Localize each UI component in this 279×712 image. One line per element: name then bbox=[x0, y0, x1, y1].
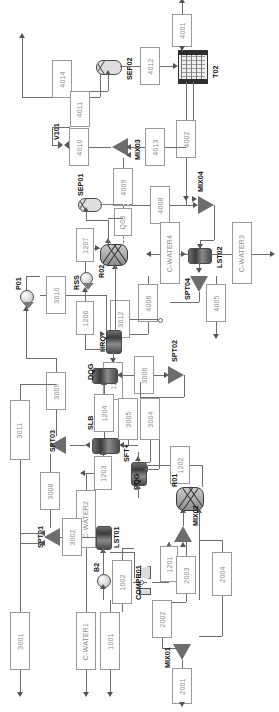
equipment-spt01[interactable] bbox=[44, 528, 60, 546]
stream-4005: 4005 bbox=[206, 284, 226, 322]
line-cw3-out bbox=[252, 254, 272, 255]
equipment-label-compr01: COMPR01 bbox=[134, 565, 143, 600]
line-4014-out bbox=[22, 38, 23, 98]
stream-3009: 3009 bbox=[46, 372, 66, 410]
stream-3010: 3010 bbox=[46, 276, 66, 314]
stream-3004: 3004 bbox=[140, 398, 160, 440]
line-3004-to-sft bbox=[145, 469, 159, 470]
equipment-lst01[interactable] bbox=[96, 526, 112, 550]
stream-2003: 2003 bbox=[176, 556, 196, 594]
line-lst01-in bbox=[103, 548, 104, 558]
equipment-mix04[interactable] bbox=[198, 196, 214, 214]
line-1206-down bbox=[85, 335, 86, 349]
stream-4011: 4011 bbox=[70, 91, 90, 127]
line-2004-h bbox=[199, 540, 222, 541]
equipment-hrq[interactable] bbox=[106, 330, 122, 354]
line-spt02-v bbox=[184, 375, 185, 397]
line-mix04-out-v bbox=[214, 205, 215, 240]
line-r02-out bbox=[108, 234, 109, 244]
stream-c-water3: C-WATER3 bbox=[232, 222, 252, 284]
process-flow-diagram: 4014 SEP02 4012 T02 4001 4002 4011 V101 … bbox=[0, 0, 279, 712]
arrow-cw3-out bbox=[270, 251, 275, 257]
line-sep02-top bbox=[100, 73, 101, 97]
equipment-mix02[interactable] bbox=[174, 526, 192, 542]
equipment-t02[interactable] bbox=[178, 50, 208, 84]
line-spt02-up bbox=[140, 382, 141, 397]
equipment-label-v101: V101 bbox=[52, 123, 61, 140]
equipment-spt02[interactable] bbox=[168, 366, 184, 384]
arrow-spt01-in2 bbox=[40, 540, 45, 546]
stream-c-water4: C-WATER4 bbox=[160, 222, 180, 284]
stream-3011: 3011 bbox=[10, 400, 30, 460]
line-1206-h bbox=[85, 349, 106, 350]
stream-1001: 1001 bbox=[100, 612, 120, 670]
equipment-mix01[interactable] bbox=[173, 644, 191, 660]
equipment-label-lst02: LST02 bbox=[215, 246, 224, 268]
line-sep01-feed-h bbox=[86, 220, 108, 221]
arrow-p01-in bbox=[23, 306, 29, 311]
equipment-label-dqg-top: DQG bbox=[86, 364, 95, 380]
stream-2001: 2001 bbox=[172, 668, 192, 704]
equipment-label-slb: SLB bbox=[86, 416, 95, 430]
arrow-sep02-feed bbox=[105, 70, 111, 75]
stream-4012: 4012 bbox=[140, 47, 160, 85]
line-3005-dn bbox=[128, 440, 129, 445]
line-spt04-h bbox=[170, 302, 199, 303]
line-cw1-dn bbox=[86, 670, 87, 694]
node-3012 bbox=[158, 318, 163, 323]
line-3002-r bbox=[82, 537, 96, 538]
line-r02-feed-v bbox=[115, 276, 116, 334]
arrow-4001-src bbox=[179, 0, 185, 3]
arrow-sep01-feed bbox=[83, 207, 89, 212]
line-3010-r bbox=[66, 295, 106, 296]
equipment-label-t02: T02 bbox=[211, 66, 220, 78]
line-1202-v bbox=[202, 465, 203, 487]
equipment-label-mix01: MIX01 bbox=[163, 647, 172, 668]
line-4009-up bbox=[123, 158, 124, 168]
arrow-spt01-in1 bbox=[40, 530, 45, 536]
arrow-4001-in bbox=[179, 46, 185, 51]
equipment-v101[interactable] bbox=[58, 141, 69, 149]
line-3011-up bbox=[20, 384, 21, 400]
line-mix04-out-h bbox=[200, 240, 214, 241]
line-spt01-h1 bbox=[20, 533, 40, 534]
arrow-4002-mix04 bbox=[183, 196, 189, 201]
line-1001-up bbox=[110, 600, 111, 612]
equipment-label-mix03: MIX03 bbox=[133, 139, 142, 160]
stream-4009: 4009 bbox=[113, 168, 133, 206]
line-3010-l bbox=[40, 295, 46, 296]
equipment-label-sep01: SEP01 bbox=[76, 174, 85, 196]
t02-trays bbox=[181, 53, 205, 81]
stream-3002: 3002 bbox=[62, 518, 82, 556]
line-3010-v bbox=[106, 295, 107, 334]
line-4009-h bbox=[108, 218, 123, 219]
equipment-r02[interactable] bbox=[100, 244, 128, 266]
line-4008-left bbox=[132, 205, 150, 206]
equipment-lst02[interactable] bbox=[188, 248, 212, 264]
stream-1204: 1204 bbox=[94, 394, 114, 432]
stream-3008: 3008 bbox=[40, 472, 60, 510]
equipment-slb[interactable] bbox=[92, 438, 120, 454]
dash-q03-sep01 bbox=[100, 204, 132, 205]
stream-4008: 4008 bbox=[150, 186, 170, 224]
equipment-label-mix02: MIX02 bbox=[191, 505, 200, 526]
line-3002-l bbox=[60, 537, 62, 538]
line-sep02-vap bbox=[120, 66, 140, 67]
equipment-sep01[interactable] bbox=[78, 198, 102, 212]
stream-4001: 4001 bbox=[172, 14, 192, 47]
arrow-1203-l bbox=[80, 470, 85, 476]
stream-1203: 1203 bbox=[94, 456, 112, 490]
arrow-3001-src bbox=[17, 692, 23, 697]
stream-3005: 3005 bbox=[118, 398, 138, 440]
equipment-label-r02: R02 bbox=[97, 265, 106, 278]
line-1002-up bbox=[122, 548, 123, 560]
stream-4014: 4014 bbox=[52, 60, 72, 98]
arrow-b2-in bbox=[100, 584, 106, 589]
line-dqg-feed bbox=[122, 375, 134, 376]
equipment-label-sep02: SEP02 bbox=[125, 58, 134, 80]
arrow-mix04-in bbox=[192, 196, 197, 202]
equipment-label-spt04: SPT04 bbox=[183, 278, 192, 300]
line-r02-in bbox=[115, 264, 116, 276]
stream-4002: 4002 bbox=[176, 120, 196, 158]
line-4013-to-mix03 bbox=[131, 147, 145, 148]
